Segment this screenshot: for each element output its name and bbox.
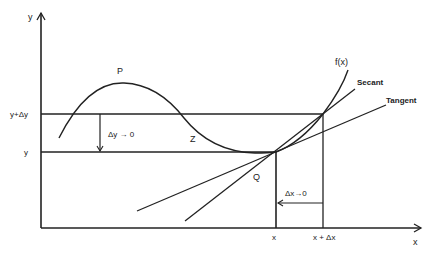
point-p-label: P xyxy=(117,66,123,76)
x-axis-label: x xyxy=(413,237,418,247)
point-z-label: Z xyxy=(190,134,196,144)
dy-annotation: Δy → 0 xyxy=(108,130,135,139)
tick-x-plus-dx: x + Δx xyxy=(313,233,335,242)
y-axis-label: y xyxy=(28,12,33,22)
curve-fx-label: f(x) xyxy=(335,57,348,67)
tangent-line xyxy=(137,105,386,211)
tick-y-plus-dy: y+Δy xyxy=(10,110,28,119)
tangent-label: Tangent xyxy=(386,96,417,105)
tick-x: x xyxy=(272,233,276,242)
dx-annotation: Δx→0 xyxy=(285,189,307,198)
secant-label: Secant xyxy=(357,78,384,87)
calculus-diagram: y x y+Δy y x x + Δx P Z Q f(x) Secant Ta… xyxy=(0,0,434,253)
point-q-label: Q xyxy=(253,172,260,182)
curve-fx xyxy=(59,70,348,153)
tick-y: y xyxy=(24,148,28,157)
